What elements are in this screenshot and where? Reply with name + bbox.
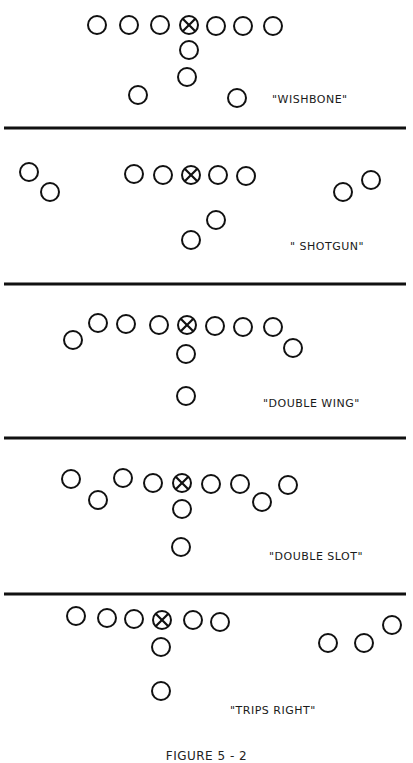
player-circle-icon xyxy=(177,345,195,363)
player-circle-icon xyxy=(154,166,172,184)
players-layer xyxy=(20,16,401,700)
player-circle-icon xyxy=(319,634,337,652)
label-double-slot: "DOUBLE SLOT" xyxy=(269,550,363,563)
player-circle-icon xyxy=(98,609,116,627)
player-circle-icon xyxy=(62,470,80,488)
player-circle-icon xyxy=(117,315,135,333)
player-circle-icon xyxy=(41,183,59,201)
player-circle-icon xyxy=(362,171,380,189)
player-circle-icon xyxy=(231,475,249,493)
player-circle-icon xyxy=(237,167,255,185)
player-circle-icon xyxy=(334,183,352,201)
player-circle-icon xyxy=(173,500,191,518)
figure-caption: FIGURE 5 - 2 xyxy=(0,749,413,763)
label-trips-right: "TRIPS RIGHT" xyxy=(230,704,316,717)
player-circle-icon xyxy=(207,211,225,229)
player-circle-icon xyxy=(264,318,282,336)
player-circle-icon xyxy=(234,318,252,336)
player-circle-icon xyxy=(67,607,85,625)
player-circle-icon xyxy=(383,616,401,634)
formation-double-slot xyxy=(62,469,297,556)
player-circle-icon xyxy=(152,682,170,700)
player-circle-icon xyxy=(151,16,169,34)
player-circle-icon xyxy=(253,493,271,511)
player-circle-icon xyxy=(209,166,227,184)
player-circle-icon xyxy=(89,491,107,509)
player-circle-icon xyxy=(178,68,196,86)
player-circle-icon xyxy=(129,86,147,104)
player-circle-icon xyxy=(182,231,200,249)
player-circle-icon xyxy=(284,339,302,357)
player-circle-icon xyxy=(207,17,225,35)
section-dividers xyxy=(4,128,406,594)
player-circle-icon xyxy=(152,638,170,656)
player-circle-icon xyxy=(177,387,195,405)
player-circle-icon xyxy=(89,314,107,332)
player-circle-icon xyxy=(150,316,168,334)
formation-trips-right xyxy=(67,607,401,700)
formation-wishbone xyxy=(88,16,282,107)
player-circle-icon xyxy=(88,16,106,34)
formation-double-wing xyxy=(64,314,302,405)
player-circle-icon xyxy=(228,89,246,107)
player-circle-icon xyxy=(279,476,297,494)
player-circle-icon xyxy=(211,613,229,631)
player-circle-icon xyxy=(355,634,373,652)
player-circle-icon xyxy=(20,163,38,181)
player-circle-icon xyxy=(234,17,252,35)
player-circle-icon xyxy=(180,41,198,59)
player-circle-icon xyxy=(125,610,143,628)
player-circle-icon xyxy=(125,165,143,183)
player-circle-icon xyxy=(64,331,82,349)
label-wishbone: "WISHBONE" xyxy=(272,93,348,106)
label-double-wing: "DOUBLE WING" xyxy=(263,397,360,410)
label-shotgun: " SHOTGUN" xyxy=(290,240,364,253)
player-circle-icon xyxy=(114,469,132,487)
player-circle-icon xyxy=(202,475,220,493)
formation-shotgun xyxy=(20,163,380,249)
player-circle-icon xyxy=(206,317,224,335)
player-circle-icon xyxy=(120,16,138,34)
player-circle-icon xyxy=(184,611,202,629)
player-circle-icon xyxy=(144,474,162,492)
player-circle-icon xyxy=(172,538,190,556)
player-circle-icon xyxy=(264,17,282,35)
